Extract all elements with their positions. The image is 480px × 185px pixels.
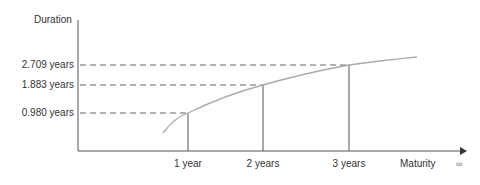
infinity-symbol: ∞ — [456, 159, 462, 169]
y-tick-2709: 2.709 years — [4, 59, 74, 70]
duration-maturity-diagram: Duration 2.709 years 1.883 years 0.980 y… — [0, 0, 480, 185]
x-tick-2-years: 2 years — [233, 158, 293, 169]
x-tick-3-years: 3 years — [319, 158, 379, 169]
x-axis-label: Maturity — [400, 158, 436, 169]
y-tick-1883: 1.883 years — [4, 79, 74, 90]
y-tick-0980: 0.980 years — [4, 107, 74, 118]
duration-curve — [163, 57, 417, 133]
x-tick-1-year: 1 year — [158, 158, 218, 169]
y-axis-label: Duration — [34, 14, 72, 25]
x-axis-arrowhead — [460, 147, 467, 155]
